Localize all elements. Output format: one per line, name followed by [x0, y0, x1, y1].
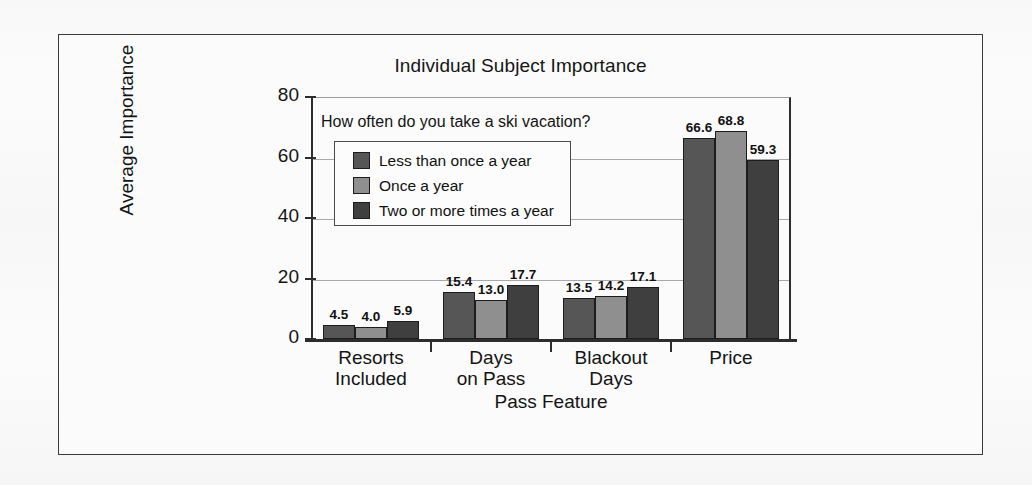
legend-title: How often do you take a ski vacation? — [321, 113, 591, 131]
x-axis-category-line: Days — [431, 347, 551, 368]
bar — [387, 321, 419, 339]
bar — [595, 296, 627, 339]
y-axis-label: Average Importance — [116, 0, 138, 260]
y-axis-tick-mark — [305, 338, 316, 340]
legend-item: Less than once a year — [353, 148, 570, 173]
x-axis-category-line: Resorts — [311, 347, 431, 368]
bar — [323, 325, 355, 339]
chart-title: Individual Subject Importance — [59, 55, 982, 77]
bar — [715, 131, 747, 339]
chart-legend: Less than once a year Once a year Two or… — [334, 141, 571, 226]
bar — [507, 285, 539, 339]
bar-value-label: 59.3 — [741, 142, 785, 157]
y-axis-tick-label: 0 — [255, 326, 299, 348]
x-axis-category-label: BlackoutDays — [551, 347, 671, 389]
x-axis-category-line: Blackout — [551, 347, 671, 368]
legend-label: Once a year — [379, 177, 463, 195]
figure-frame: Individual Subject Importance Average Im… — [58, 34, 983, 455]
legend-swatch-less-than-once-a-year — [353, 152, 370, 169]
bar — [355, 327, 387, 339]
y-axis-tick-mark — [305, 217, 316, 219]
x-axis-category-line: Days — [551, 368, 671, 389]
x-axis-category-line: on Pass — [431, 368, 551, 389]
page-background: Individual Subject Importance Average Im… — [0, 0, 1032, 485]
y-axis-tick-label: 20 — [255, 266, 299, 288]
bar-value-label: 68.8 — [709, 113, 753, 128]
bar-value-label: 17.7 — [501, 267, 545, 282]
legend-item: Once a year — [353, 173, 570, 198]
x-axis-label: Pass Feature — [311, 391, 791, 413]
x-axis-category-line: Price — [671, 347, 791, 368]
y-axis-tick-label: 60 — [255, 145, 299, 167]
x-axis-category-label: Price — [671, 347, 791, 368]
y-axis-tick-mark — [305, 278, 316, 280]
y-axis-tick-label: 40 — [255, 205, 299, 227]
y-axis-tick-mark — [305, 157, 316, 159]
y-axis-tick-label: 80 — [255, 84, 299, 106]
x-axis-category-label: ResortsIncluded — [311, 347, 431, 389]
bar — [443, 292, 475, 339]
bar — [683, 138, 715, 339]
bar-value-label: 17.1 — [621, 269, 665, 284]
x-axis-category-line: Included — [311, 368, 431, 389]
legend-swatch-once-a-year — [353, 177, 370, 194]
bar — [627, 287, 659, 339]
x-axis-category-label: Dayson Pass — [431, 347, 551, 389]
legend-swatch-two-or-more-times-a-year — [353, 202, 370, 219]
bar — [563, 298, 595, 339]
legend-item: Two or more times a year — [353, 198, 570, 223]
legend-label: Two or more times a year — [379, 202, 554, 220]
legend-label: Less than once a year — [379, 152, 532, 170]
y-axis-tick-mark — [305, 96, 316, 98]
bar-value-label: 5.9 — [381, 303, 425, 318]
bar — [747, 160, 779, 339]
bar — [475, 300, 507, 339]
